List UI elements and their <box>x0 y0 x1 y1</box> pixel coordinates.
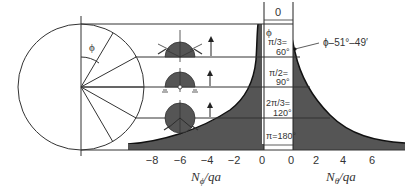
support-icon-60 <box>158 30 202 62</box>
angle-label-120-b: 120° <box>273 108 292 118</box>
upward-arrow-icon <box>207 70 213 86</box>
radius-120 <box>81 87 136 118</box>
support-icon-90 <box>162 68 198 92</box>
left-axis-title: Nϕ/qa <box>190 169 221 186</box>
angle-label-60-a: π/3= <box>268 37 287 47</box>
right-tick-0: 0 <box>288 154 294 166</box>
upward-arrow-icon <box>207 102 213 117</box>
radius-30 <box>81 33 113 87</box>
angle-label-180: π=180° <box>266 131 296 141</box>
right-axis-title: Nθ/qa <box>325 169 356 186</box>
phi-angle-label: ϕ <box>89 41 95 53</box>
left-tick-m4: −4 <box>201 154 214 166</box>
annotation-leader <box>295 43 319 49</box>
angle-label-90-b: 90° <box>276 77 290 87</box>
dome-force-diagram: ϕ 0 ϕ π/3= 60° <box>0 0 409 191</box>
radius-60 <box>81 57 136 87</box>
left-tick-0: 0 <box>259 154 265 166</box>
right-tick-6: 6 <box>369 154 375 166</box>
left-tick-m2: −2 <box>228 154 241 166</box>
upward-arrow-icon <box>208 36 214 56</box>
angle-label-60-b: 60° <box>276 47 290 57</box>
right-tick-4: 4 <box>340 154 346 166</box>
left-tick-m6: −6 <box>174 154 187 166</box>
top-zero-label: 0 <box>275 6 281 18</box>
angle-label-120-a: 2π/3= <box>266 98 290 108</box>
right-tick-2: 2 <box>313 154 319 166</box>
radius-150 <box>81 87 113 142</box>
annotation-label: ϕ–51°–49′ <box>323 37 368 48</box>
left-tick-m8: −8 <box>146 154 159 166</box>
